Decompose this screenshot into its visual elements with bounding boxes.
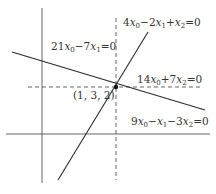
rhs: =0: [101, 40, 116, 52]
label-dashed-vertical: 21x0−7x1=0: [51, 41, 116, 54]
operator: −: [167, 115, 176, 127]
label-line-a: 9x0−x1−3x2=0: [131, 116, 209, 129]
coef: 14: [137, 73, 150, 85]
operator: +: [161, 73, 170, 85]
label-line-b: 4x0−2x1+x2=0: [123, 17, 201, 30]
operator: −: [140, 16, 149, 28]
operator: −: [148, 115, 157, 127]
rhs: =0: [187, 73, 202, 85]
label-point: (1, 3, 2): [73, 90, 115, 101]
label-dashed-horizontal: 14x0+7x2=0: [137, 74, 202, 87]
coef: 3: [176, 115, 183, 127]
operator: +: [166, 16, 175, 28]
coef: 2: [149, 16, 156, 28]
diagram-canvas: 4x0−2x1+x2=0 21x0−7x1=0 14x0+7x2=0 (1, 3…: [0, 0, 216, 194]
coef: 21: [51, 40, 64, 52]
rhs: =0: [193, 115, 208, 127]
rhs: =0: [185, 16, 200, 28]
line-4x0-2x1-x2: [58, 32, 148, 180]
coef: 9: [131, 115, 138, 127]
coef: 4: [123, 16, 130, 28]
operator: −: [75, 40, 84, 52]
